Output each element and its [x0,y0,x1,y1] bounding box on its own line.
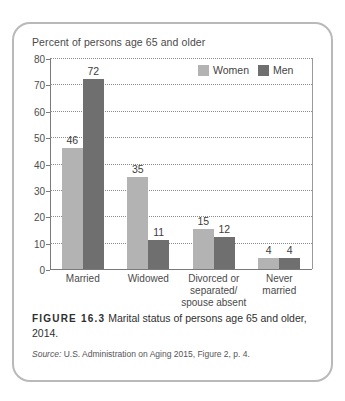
figure-caption: FIGURE 16.3 Marital status of persons ag… [32,311,316,340]
y-tick-mark-0 [46,270,50,271]
figure-card: Percent of persons age 65 and older 0102… [12,22,333,382]
bar-value-women-0: 46 [66,134,78,146]
bar-women-1 [127,177,148,269]
source-label: Source: [32,349,61,359]
bar-men-3 [279,258,300,269]
y-tick-mark-10 [46,244,50,245]
chart-axis-title: Percent of persons age 65 and older [32,36,205,48]
chart-plot-area: 01020304050607080 46723511151244 Married… [50,58,312,269]
bar-value-men-3: 4 [287,244,293,256]
legend-label-men: Men [273,64,293,76]
bar-women-2 [193,229,214,269]
bar-value-women-2: 15 [197,215,209,227]
y-tick-label-60: 60 [34,106,45,117]
bar-women-0 [62,148,83,269]
category-label-0: Married [66,273,100,285]
legend-item-men: Men [258,64,293,76]
legend-label-women: Women [213,64,249,76]
category-label-3: Never married [262,273,296,297]
y-tick-label-0: 0 [39,265,45,276]
y-tick-mark-80 [46,59,50,60]
bar-value-men-0: 72 [87,65,99,77]
figure-number: FIGURE 16.3 [32,313,105,324]
plot-right-border [312,58,313,269]
y-tick-mark-20 [46,217,50,218]
bar-men-0 [83,79,104,269]
y-tick-mark-50 [46,138,50,139]
bar-value-men-1: 11 [153,226,164,238]
bar-women-3 [258,258,279,269]
y-tick-mark-40 [46,165,50,166]
y-tick-mark-30 [46,191,50,192]
bar-value-men-2: 12 [218,223,230,235]
figure-source: Source: U.S. Administration on Aging 201… [32,349,322,360]
y-tick-mark-60 [46,112,50,113]
chart-legend: Women Men [198,64,293,76]
category-label-1: Widowed [128,273,169,285]
bar-men-2 [214,237,235,269]
y-tick-label-80: 80 [34,54,45,65]
legend-swatch-women-icon [198,65,209,76]
gridline-0: 0 [50,269,312,270]
y-tick-mark-70 [46,85,50,86]
y-tick-label-30: 30 [34,185,45,196]
gridline-80: 80 [50,58,312,59]
y-tick-label-50: 50 [34,133,45,144]
source-text: U.S. Administration on Aging 2015, Figur… [64,349,250,359]
bar-value-women-1: 35 [132,163,144,175]
y-tick-label-10: 10 [34,238,45,249]
y-tick-label-40: 40 [34,159,45,170]
chart-plot-wrapper: 01020304050607080 46723511151244 Married… [50,58,312,270]
bar-men-1 [148,240,169,269]
legend-swatch-men-icon [258,65,269,76]
y-tick-label-70: 70 [34,80,45,91]
bar-value-women-3: 4 [266,244,272,256]
legend-item-women: Women [198,64,249,76]
y-tick-label-20: 20 [34,212,45,223]
category-label-2: Divorced or separated/ spouse absent [181,273,246,309]
